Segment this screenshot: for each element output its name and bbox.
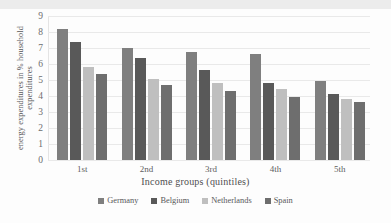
x-axis-tick-label: 3rd bbox=[205, 164, 217, 174]
x-axis-tick-label: 4th bbox=[270, 164, 282, 174]
bar-group bbox=[57, 16, 107, 160]
bar-belgium-3rd bbox=[199, 70, 210, 160]
plot-area: 01234567891st2nd3rd4th5th bbox=[48, 16, 370, 160]
legend-swatch-icon bbox=[151, 198, 157, 204]
x-axis-title: Income groups (quintiles) bbox=[0, 176, 391, 187]
bar-spain-4th bbox=[289, 97, 300, 160]
bar-netherlands-1st bbox=[83, 67, 94, 160]
legend-label: Spain bbox=[274, 196, 293, 205]
y-axis-tick-label: 2 bbox=[38, 123, 43, 133]
legend-item-netherlands[interactable]: Netherlands bbox=[202, 196, 251, 205]
y-axis-line bbox=[48, 16, 49, 160]
bar-group bbox=[122, 16, 172, 160]
legend-label: Netherlands bbox=[211, 196, 251, 205]
y-axis-tick-label: 3 bbox=[38, 107, 43, 117]
legend-item-germany[interactable]: Germany bbox=[98, 196, 138, 205]
y-axis-tick-label: 9 bbox=[38, 11, 43, 21]
bar-germany-5th bbox=[315, 81, 326, 160]
y-axis-tick-label: 6 bbox=[38, 59, 43, 69]
bar-belgium-1st bbox=[70, 42, 81, 160]
x-axis-tick-label: 2nd bbox=[140, 164, 154, 174]
bar-netherlands-3rd bbox=[212, 83, 223, 160]
legend-swatch-icon bbox=[265, 198, 271, 204]
legend-label: Germany bbox=[107, 196, 138, 205]
bar-group bbox=[186, 16, 236, 160]
bar-netherlands-5th bbox=[341, 99, 352, 160]
bar-netherlands-4th bbox=[276, 89, 287, 160]
legend-swatch-icon bbox=[98, 198, 104, 204]
y-axis-title: energy expenditures in % household expen… bbox=[13, 13, 39, 163]
bar-spain-3rd bbox=[225, 91, 236, 160]
legend-label: Belgium bbox=[160, 196, 189, 205]
legend-item-spain[interactable]: Spain bbox=[265, 196, 293, 205]
bar-spain-2nd bbox=[161, 85, 172, 160]
bar-germany-2nd bbox=[122, 48, 133, 160]
bar-spain-5th bbox=[354, 102, 365, 160]
bar-belgium-4th bbox=[263, 83, 274, 160]
bar-germany-1st bbox=[57, 29, 68, 160]
scan-strip bbox=[0, 0, 391, 9]
bar-belgium-2nd bbox=[135, 58, 146, 160]
y-axis-tick-label: 4 bbox=[38, 91, 43, 101]
bar-germany-3rd bbox=[186, 52, 197, 160]
bar-group bbox=[250, 16, 300, 160]
y-axis-tick-label: 1 bbox=[38, 139, 43, 149]
bar-belgium-5th bbox=[328, 94, 339, 160]
legend-item-belgium[interactable]: Belgium bbox=[151, 196, 189, 205]
bar-germany-4th bbox=[250, 54, 261, 160]
y-axis-title-line-2: expenditures bbox=[26, 66, 35, 110]
x-axis-tick-label: 1st bbox=[77, 164, 88, 174]
y-axis-tick-label: 5 bbox=[38, 75, 43, 85]
y-axis-tick-label: 8 bbox=[38, 27, 43, 37]
y-axis-tick-label: 0 bbox=[38, 155, 43, 165]
bar-netherlands-2nd bbox=[148, 79, 159, 160]
legend-swatch-icon bbox=[202, 198, 208, 204]
x-axis-tick-label: 5th bbox=[334, 164, 346, 174]
energy-expenditure-bar-chart: energy expenditures in % household expen… bbox=[0, 0, 391, 223]
y-axis-tick-label: 7 bbox=[38, 43, 43, 53]
bar-spain-1st bbox=[96, 74, 107, 160]
gridline bbox=[48, 160, 370, 161]
chart-legend: GermanyBelgiumNetherlandsSpain bbox=[0, 196, 391, 205]
bar-group bbox=[315, 16, 365, 160]
